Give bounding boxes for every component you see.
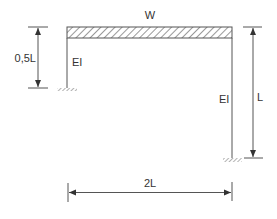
beam: [67, 27, 232, 38]
arrow-right-icon: [224, 190, 231, 196]
arrow-down-icon: [250, 150, 256, 157]
arrow-left-icon: [69, 190, 76, 196]
arrow-up-icon: [250, 28, 256, 35]
load-label: W: [145, 9, 156, 21]
right-height-label: L: [257, 91, 263, 103]
right-fixed-support-icon: [223, 158, 242, 162]
left-stiffness-label: EI: [72, 56, 82, 68]
left-fixed-support-icon: [57, 88, 77, 91]
span-label: 2L: [144, 177, 156, 189]
arrow-down-icon: [35, 80, 41, 87]
arrow-up-icon: [35, 28, 41, 35]
portal-frame-diagram: W 0,5L EI EI L 2L: [0, 0, 277, 219]
right-stiffness-label: EI: [219, 93, 229, 105]
left-height-label: 0,5L: [15, 52, 36, 64]
